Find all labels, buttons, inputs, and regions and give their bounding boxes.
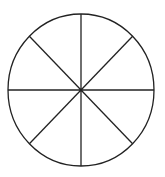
divided-circle-diagram bbox=[0, 0, 165, 177]
center-point bbox=[80, 89, 83, 92]
segment-dividers bbox=[8, 14, 154, 166]
